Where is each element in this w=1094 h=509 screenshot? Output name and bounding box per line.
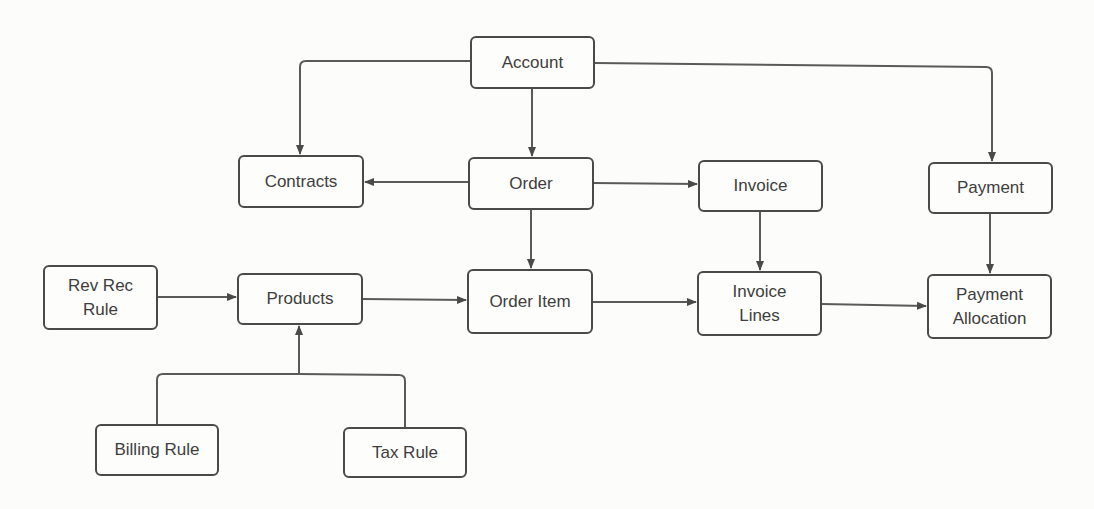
edge-account-payment bbox=[595, 63, 992, 161]
node-label: Invoice bbox=[734, 174, 788, 198]
node-invoice[interactable]: Invoice bbox=[698, 160, 823, 212]
edge-invoicelines-allocation bbox=[822, 304, 926, 306]
node-label: Payment Allocation bbox=[953, 283, 1027, 331]
edge-products-orderitem bbox=[363, 299, 466, 300]
node-label: Contracts bbox=[265, 170, 338, 194]
edge-order-invoice bbox=[594, 183, 697, 184]
node-rev-rec-rule[interactable]: Rev Rec Rule bbox=[43, 265, 158, 330]
node-account[interactable]: Account bbox=[470, 36, 595, 89]
node-billing-rule[interactable]: Billing Rule bbox=[95, 424, 219, 476]
node-label: Account bbox=[502, 51, 563, 75]
node-label: Products bbox=[266, 287, 333, 311]
node-label: Payment bbox=[957, 176, 1024, 200]
node-label: Invoice Lines bbox=[733, 280, 787, 328]
edge-taxrule-products bbox=[299, 374, 405, 427]
node-label: Order bbox=[509, 172, 552, 196]
node-invoice-lines[interactable]: Invoice Lines bbox=[697, 271, 822, 336]
node-payment[interactable]: Payment bbox=[928, 162, 1053, 214]
node-payment-allocation[interactable]: Payment Allocation bbox=[927, 274, 1052, 339]
node-label: Tax Rule bbox=[372, 441, 438, 465]
node-order-item[interactable]: Order Item bbox=[467, 269, 593, 334]
node-contracts[interactable]: Contracts bbox=[238, 155, 364, 208]
node-label: Rev Rec Rule bbox=[68, 274, 133, 322]
node-tax-rule[interactable]: Tax Rule bbox=[343, 427, 467, 478]
node-order[interactable]: Order bbox=[468, 157, 594, 210]
edge-account-contracts bbox=[300, 61, 470, 154]
node-label: Billing Rule bbox=[114, 438, 199, 462]
node-products[interactable]: Products bbox=[237, 273, 363, 325]
node-label: Order Item bbox=[489, 290, 570, 314]
edge-billingrule-products bbox=[157, 326, 299, 424]
